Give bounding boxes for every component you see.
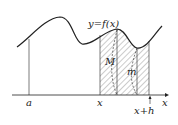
curve-label: y=f(x) xyxy=(88,19,119,29)
pointer-arrow-icon xyxy=(149,96,152,100)
region-label-max: M xyxy=(105,57,115,67)
tick-label-x-plus-h: x+h xyxy=(134,106,154,116)
axis-label-x: x xyxy=(162,98,168,108)
tick-label-a: a xyxy=(26,98,32,108)
region-label-min: m xyxy=(127,67,136,77)
tick-label-x: x xyxy=(97,98,103,108)
